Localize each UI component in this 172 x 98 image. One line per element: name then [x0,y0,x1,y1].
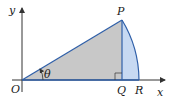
angle-theta-label: θ [44,68,51,81]
y-axis-label: y [8,4,16,17]
x-axis-label: x [157,86,164,98]
sector-region [122,20,139,80]
diagram: y x O P Q R θ [0,0,172,98]
point-q-label: Q [117,84,126,97]
point-r-label: R [134,84,143,97]
origin-label: O [11,83,20,96]
point-p-label: P [116,5,125,18]
